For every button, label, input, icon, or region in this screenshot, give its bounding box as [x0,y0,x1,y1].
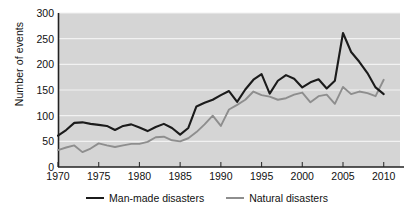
x-tick-label: 1985 [168,170,191,182]
y-axis-tick-labels: 300 250 200 150 100 50 0 [22,0,54,217]
y-tick-label: 150 [24,85,54,96]
legend-item-man-made[interactable]: Man-made disasters [86,192,204,204]
y-tick-label: 50 [24,136,54,147]
x-tick-label: 2000 [291,170,314,182]
chart-container: Number of events 300 250 200 150 100 50 … [0,0,414,217]
x-tick-label: 2010 [372,170,395,182]
legend-swatch-man-made [86,197,104,199]
y-tick-label: 250 [24,34,54,45]
chart-legend: Man-made disasters Natural disasters [0,192,414,204]
x-tick-label: 1970 [46,170,69,182]
x-tick-label: 1975 [87,170,110,182]
y-tick-label: 200 [24,59,54,70]
legend-label-natural: Natural disasters [249,192,328,204]
legend-item-natural[interactable]: Natural disasters [226,192,328,204]
x-tick-label: 2005 [331,170,354,182]
legend-label-man-made: Man-made disasters [109,192,204,204]
legend-swatch-natural [226,197,244,199]
y-tick-label: 300 [24,8,54,19]
x-tick-label: 1990 [209,170,232,182]
x-tick-label: 1980 [128,170,151,182]
plot-area [0,0,414,217]
y-tick-label: 100 [24,111,54,122]
x-tick-label: 1995 [250,170,273,182]
